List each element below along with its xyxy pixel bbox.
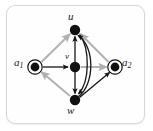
node-label-w: w xyxy=(67,105,74,116)
node-v[interactable] xyxy=(70,62,80,72)
node-a2[interactable] xyxy=(108,60,122,74)
node-label-u: u xyxy=(68,11,74,22)
node-label-v: v xyxy=(65,52,69,61)
edge-w-to-a1 xyxy=(42,72,71,96)
node-label-a1-subscript: 1 xyxy=(20,61,24,70)
node-label-a2-subscript: 2 xyxy=(128,61,132,70)
node-a1[interactable] xyxy=(28,60,42,74)
edge-a2-to-u xyxy=(81,34,109,62)
node-label-a2: a2 xyxy=(122,57,131,70)
node-a2-core xyxy=(111,63,120,72)
node-a1-core xyxy=(31,63,40,72)
figure-root: u v w a1 a2 xyxy=(0,0,153,131)
node-u[interactable] xyxy=(70,25,80,35)
node-label-a1: a1 xyxy=(14,57,23,70)
